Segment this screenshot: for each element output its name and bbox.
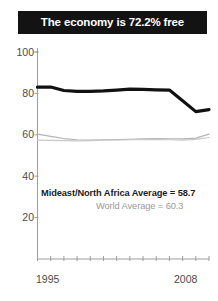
x-axis-end-label: 2008 — [174, 274, 197, 285]
series-line-3 — [38, 87, 210, 112]
annotation-mideast-average: Mideast/North Africa Average = 58.7 — [41, 189, 195, 198]
x-axis-start-label: 1995 — [36, 274, 59, 285]
y-axis-tick-label: 80 — [4, 88, 34, 99]
y-axis-tick-label: 100 — [4, 47, 34, 58]
y-axis-tick-label: 60 — [4, 129, 34, 140]
y-axis-tick-label: 40 — [4, 171, 34, 182]
chart-figure: The economy is 72.2% free 10080604020 19… — [0, 0, 218, 301]
annotation-world-average: World Average = 60.3 — [96, 202, 183, 211]
y-axis-tick-label: 20 — [4, 212, 34, 223]
